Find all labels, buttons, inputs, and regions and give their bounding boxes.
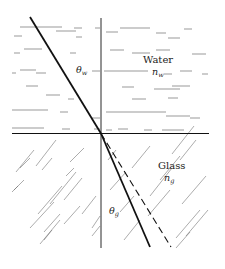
diagram-canvas — [0, 0, 225, 269]
n-subscript: g — [170, 177, 174, 185]
refraction-diagram: θw Water nw Glass ng θg — [0, 0, 225, 269]
theta-subscript: w — [82, 69, 88, 77]
water-texture — [12, 27, 208, 130]
undeviated-ray-dashed — [101, 134, 171, 248]
glass-label: Glass — [158, 161, 185, 171]
water-index-label: nw — [152, 67, 164, 79]
refracted-angle-label: θg — [109, 206, 119, 218]
glass-index-label: ng — [164, 173, 174, 185]
water-label: Water — [143, 55, 173, 65]
n-subscript: w — [158, 71, 164, 79]
refracted-ray — [101, 134, 150, 248]
incident-ray — [30, 17, 101, 134]
incident-angle-label: θw — [76, 65, 87, 77]
glass-texture — [12, 126, 208, 248]
theta-subscript: g — [115, 210, 119, 218]
